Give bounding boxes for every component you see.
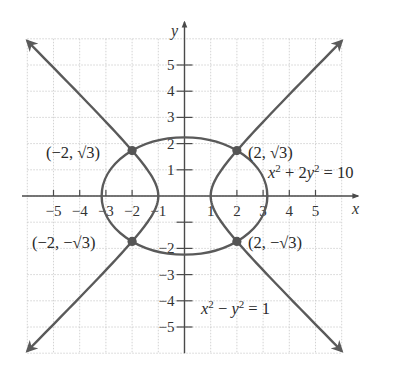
- y-tick-label: 4: [167, 83, 175, 99]
- point-label-neg2-negsqrt3: (−2, −√3): [32, 233, 95, 252]
- point-label-2-sqrt3: (2, √3): [248, 143, 293, 162]
- intersection-dot: [232, 237, 241, 246]
- x-tick-label: −5: [46, 203, 62, 219]
- x-tick-label: −1: [150, 203, 166, 219]
- point-label-2-negsqrt3: (2, −√3): [248, 233, 302, 252]
- x-tick-label: −2: [124, 203, 140, 219]
- x-tick-label: 5: [312, 203, 320, 219]
- ellipse-equation-label: x2 + 2y2 = 10: [267, 162, 354, 182]
- point-label-neg2-sqrt3: (−2, √3): [46, 143, 100, 162]
- y-tick-label: −5: [159, 319, 175, 335]
- chart-figure: −5−4−3−2−112345−5−4−3−212345 x y (−2, √3…: [0, 0, 405, 370]
- x-tick-label: −4: [72, 203, 88, 219]
- y-tick-label: 5: [167, 57, 175, 73]
- x-tick-label: 4: [286, 203, 294, 219]
- x-axis-label: x: [351, 200, 359, 217]
- x-tick-label: 2: [233, 203, 241, 219]
- intersection-dot: [128, 237, 137, 246]
- y-tick-label: 3: [167, 109, 175, 125]
- y-tick-label: −3: [159, 267, 175, 283]
- y-tick-label: 1: [167, 162, 175, 178]
- intersection-dot: [232, 146, 241, 155]
- y-axis-label: y: [169, 22, 179, 40]
- intersection-dot: [128, 146, 137, 155]
- y-tick-label: −4: [159, 293, 175, 309]
